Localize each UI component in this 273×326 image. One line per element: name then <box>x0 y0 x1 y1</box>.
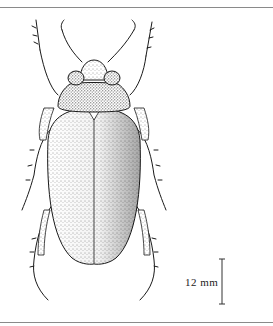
pronotum <box>58 83 130 113</box>
left-eye <box>68 71 84 85</box>
left-antenna <box>61 20 82 62</box>
right-front-leg <box>130 22 154 95</box>
left-front-leg <box>32 20 58 95</box>
right-eye <box>104 71 120 85</box>
right-antenna <box>108 20 135 62</box>
beetle-illustration <box>0 0 273 326</box>
right-mid-leg <box>138 130 166 210</box>
scale-bar <box>219 259 225 304</box>
left-mid-leg <box>22 130 50 210</box>
bottom-rule <box>0 322 273 323</box>
scale-bar-label: 12 mm <box>185 276 218 288</box>
